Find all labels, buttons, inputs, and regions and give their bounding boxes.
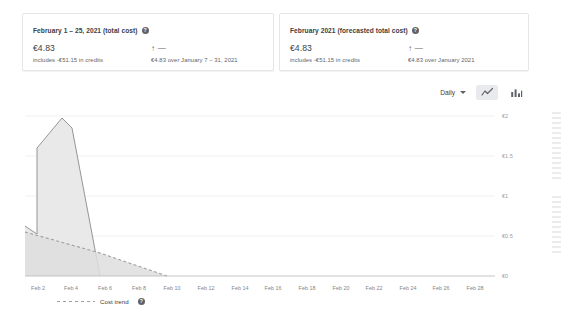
cost-chart[interactable]: €2 €1.5 €1 €0.5 €0 Feb 2 Feb 4 Feb 6 Feb… bbox=[0, 104, 565, 299]
x-tick-label: Feb 12 bbox=[198, 285, 215, 291]
card-subtext: includes -€51.15 in credits bbox=[33, 55, 151, 65]
trend-up-icon: ↑ bbox=[151, 44, 155, 53]
card-amount-column: €4.83 includes -€51.15 in credits bbox=[290, 43, 408, 65]
x-tick-label: Feb 2 bbox=[31, 285, 45, 291]
chart-y-axis-labels: €2 €1.5 €1 €0.5 €0 bbox=[502, 113, 513, 279]
x-tick-label: Feb 18 bbox=[299, 285, 316, 291]
card-comparison-column: ↑ — €4.83 over January 2021 bbox=[408, 43, 518, 65]
card-amount: €4.83 bbox=[290, 43, 408, 54]
card-body: €4.83 includes -€51.15 in credits ↑ — €4… bbox=[33, 43, 263, 65]
card-subtext: includes -€51.15 in credits bbox=[290, 55, 408, 65]
chart-toolbar: Daily bbox=[437, 85, 527, 100]
card-delta: ↑ — bbox=[408, 43, 518, 54]
total-cost-card: February 1 – 25, 2021 (total cost)? €4.8… bbox=[22, 13, 274, 71]
card-title: February 1 – 25, 2021 (total cost) bbox=[33, 26, 138, 35]
card-delta-value: — bbox=[415, 44, 423, 53]
x-tick-label: Feb 22 bbox=[366, 285, 383, 291]
card-comparison-column: ↑ — €4.83 over January 7 – 31, 2021 bbox=[151, 43, 263, 65]
card-comparison: €4.83 over January 7 – 31, 2021 bbox=[151, 55, 263, 65]
summary-cards-row: February 1 – 25, 2021 (total cost)? €4.8… bbox=[22, 13, 530, 71]
forecasted-cost-card: February 2021 (forecasted total cost)? €… bbox=[279, 13, 529, 71]
card-amount: €4.83 bbox=[33, 43, 151, 54]
y-tick-label: €0.5 bbox=[502, 233, 513, 239]
x-tick-label: Feb 28 bbox=[467, 285, 484, 291]
cost-trend-overlap-fill bbox=[25, 232, 167, 276]
y-tick-label: €0 bbox=[502, 273, 508, 279]
legend-label: Cost trend bbox=[100, 298, 129, 305]
chart-gridlines bbox=[25, 116, 495, 236]
chart-x-axis-labels: Feb 2 Feb 4 Feb 6 Feb 8 Feb 10 Feb 12 Fe… bbox=[31, 285, 483, 291]
x-tick-label: Feb 4 bbox=[64, 285, 78, 291]
card-amount-column: €4.83 includes -€51.15 in credits bbox=[33, 43, 151, 65]
y-tick-label: €1 bbox=[502, 193, 508, 199]
scan-artifact bbox=[552, 196, 561, 254]
granularity-label: Daily bbox=[440, 89, 455, 96]
chart-legend: Cost trend ? bbox=[57, 298, 145, 305]
chart-canvas[interactable]: €2 €1.5 €1 €0.5 €0 Feb 2 Feb 4 Feb 6 Feb… bbox=[0, 104, 565, 299]
bar-chart-icon bbox=[510, 87, 523, 98]
x-tick-label: Feb 10 bbox=[164, 285, 181, 291]
bar-chart-toggle[interactable] bbox=[505, 85, 527, 100]
x-tick-label: Feb 14 bbox=[232, 285, 249, 291]
scan-artifact bbox=[552, 112, 561, 180]
x-tick-label: Feb 8 bbox=[132, 285, 146, 291]
y-tick-label: €1.5 bbox=[502, 153, 513, 159]
x-tick-label: Feb 26 bbox=[433, 285, 450, 291]
card-delta: ↑ — bbox=[151, 43, 263, 54]
cost-trend-legend-swatch bbox=[57, 301, 95, 302]
help-icon[interactable]: ? bbox=[138, 298, 145, 305]
x-tick-label: Feb 16 bbox=[265, 285, 282, 291]
trend-up-icon: ↑ bbox=[408, 44, 412, 53]
y-tick-label: €2 bbox=[502, 113, 508, 119]
card-title: February 2021 (forecasted total cost) bbox=[290, 26, 408, 35]
granularity-dropdown[interactable]: Daily bbox=[437, 87, 469, 98]
line-chart-icon bbox=[481, 87, 494, 98]
card-body: €4.83 includes -€51.15 in credits ↑ — €4… bbox=[290, 43, 518, 65]
chevron-down-icon bbox=[460, 91, 466, 94]
card-delta-value: — bbox=[158, 44, 166, 53]
x-tick-label: Feb 24 bbox=[400, 285, 417, 291]
x-tick-label: Feb 6 bbox=[98, 285, 112, 291]
help-icon[interactable]: ? bbox=[412, 27, 419, 34]
x-tick-label: Feb 20 bbox=[333, 285, 350, 291]
line-chart-toggle[interactable] bbox=[476, 85, 498, 100]
help-icon[interactable]: ? bbox=[142, 27, 149, 34]
card-comparison: €4.83 over January 2021 bbox=[408, 55, 518, 65]
